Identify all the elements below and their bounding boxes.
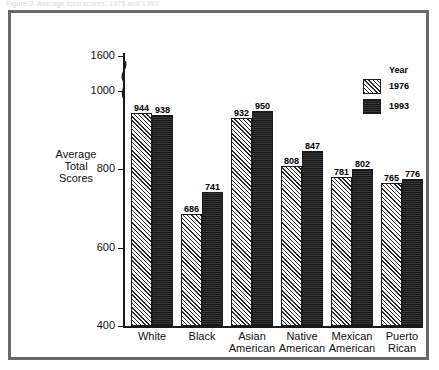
bar-asian-american-1976[interactable]: 932	[231, 118, 252, 326]
y-axis-title-line-1: Average	[37, 148, 115, 160]
bar-puerto-rican-1993[interactable]: 776	[402, 179, 423, 326]
y-tick-label-600: 600	[97, 241, 115, 253]
bar-native-american-1993[interactable]: 847	[302, 151, 323, 326]
bar-value-label: 944	[134, 103, 149, 113]
y-tick-label-1600: 1600	[91, 49, 115, 61]
y-tick-400: 400	[118, 326, 123, 327]
y-tick-label-1000: 1000	[91, 84, 115, 96]
bar-value-label: 776	[405, 169, 420, 179]
bar-group-white: 944938White	[131, 53, 179, 326]
legend-swatch-1976	[363, 79, 381, 94]
bar-group-black: 686741Black	[181, 53, 229, 326]
bar-value-label: 938	[155, 105, 170, 115]
bar-value-label: 808	[284, 156, 299, 166]
bar-native-american-1976[interactable]: 808	[281, 166, 302, 326]
legend-label-1993: 1993	[389, 101, 409, 111]
y-tick-800: 800	[118, 169, 123, 170]
bar-mexican-american-1976[interactable]: 781	[331, 177, 352, 326]
bar-value-label: 847	[305, 141, 320, 151]
bar-value-label: 802	[355, 159, 370, 169]
bar-group-asian-american: 932950AsianAmerican	[231, 53, 279, 326]
plot-area: Average Total Scores 40060080010001600 9…	[123, 53, 423, 328]
bar-group-native-american: 808847NativeAmerican	[281, 53, 329, 326]
chart-frame: Average Total Scores 40060080010001600 9…	[8, 10, 429, 360]
x-axis-label-line-2: Rican	[363, 342, 439, 354]
bar-puerto-rican-1976[interactable]: 765	[381, 183, 402, 326]
bar-mexican-american-1993[interactable]: 802	[352, 169, 373, 326]
bar-asian-american-1993[interactable]: 950	[252, 111, 273, 326]
x-axis-line	[123, 326, 423, 328]
legend-title: Year	[389, 65, 408, 75]
bar-value-label: 741	[205, 182, 220, 192]
bar-white-1993[interactable]: 938	[152, 115, 173, 326]
bar-white-1976[interactable]: 944	[131, 113, 152, 326]
legend-label-1976: 1976	[389, 81, 409, 91]
y-tick-1000: 1000	[118, 91, 123, 92]
y-tick-600: 600	[118, 248, 123, 249]
chart-page: Figure 3. Average total scores, 1976 and…	[0, 0, 439, 370]
bar-group-puerto-rican: 765776PuertoRican	[381, 53, 429, 326]
bar-value-label: 950	[255, 101, 270, 111]
bar-value-label: 781	[334, 167, 349, 177]
bar-value-label: 686	[184, 204, 199, 214]
y-tick-1600: 1600	[118, 56, 123, 57]
bar-value-label: 932	[234, 108, 249, 118]
top-caption-fragment: Figure 3. Average total scores, 1976 and…	[6, 0, 246, 8]
bar-black-1976[interactable]: 686	[181, 214, 202, 326]
y-tick-label-800: 800	[97, 162, 115, 174]
bar-black-1993[interactable]: 741	[202, 192, 223, 326]
x-axis-label-line-1: Puerto	[363, 330, 439, 342]
bar-value-label: 765	[384, 173, 399, 183]
legend-swatch-1993	[363, 99, 381, 114]
x-axis-label-puerto-rican: PuertoRican	[363, 330, 439, 354]
